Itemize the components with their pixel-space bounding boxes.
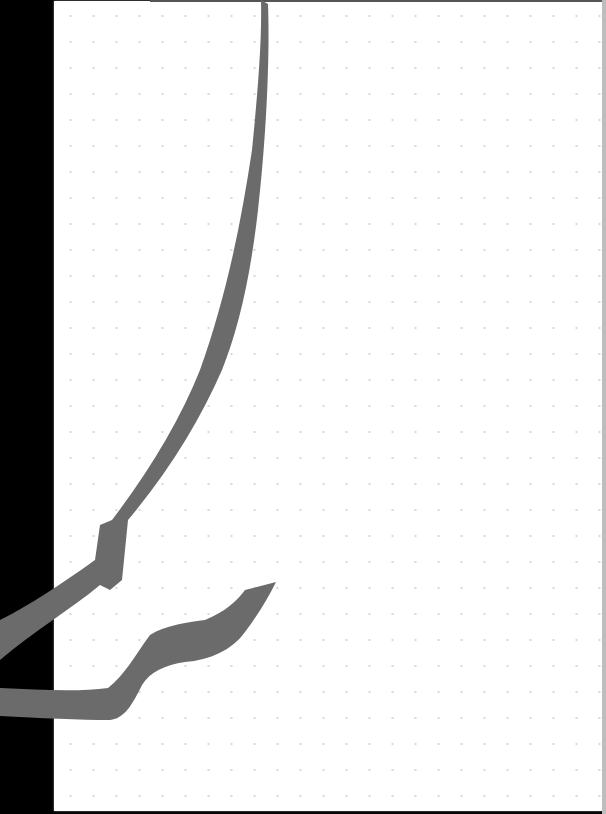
ink-layer[interactable]: [0, 0, 606, 814]
long-curve-stroke[interactable]: [0, 0, 269, 660]
